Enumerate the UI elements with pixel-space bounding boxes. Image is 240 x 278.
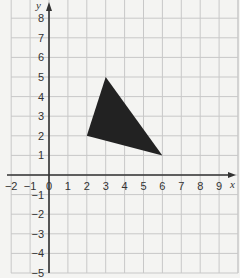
y-axis-label: y xyxy=(35,0,41,11)
x-tick-label: 3 xyxy=(103,180,109,192)
y-tick-label: 7 xyxy=(38,32,44,44)
y-tick-label: 6 xyxy=(38,51,44,63)
y-tick-label: 3 xyxy=(38,110,44,122)
y-tick-label: −1 xyxy=(31,189,44,201)
y-tick-label: 2 xyxy=(38,130,44,142)
tick-labels: −2−1012345678987654321−1−2−3−4−5 xyxy=(5,12,222,278)
x-tick-label: 5 xyxy=(140,180,146,192)
x-tick-label: 6 xyxy=(159,180,165,192)
x-tick-label: 2 xyxy=(84,180,90,192)
y-tick-label: 8 xyxy=(38,12,44,24)
x-axis-label: x xyxy=(229,178,235,190)
y-tick-label: −3 xyxy=(31,228,44,240)
y-tick-label: 5 xyxy=(38,71,44,83)
x-tick-label: 4 xyxy=(122,180,128,192)
y-tick-label: −2 xyxy=(31,208,44,220)
y-axis-arrow-icon xyxy=(46,2,52,11)
x-tick-label: 7 xyxy=(178,180,184,192)
y-tick-label: −4 xyxy=(31,247,44,259)
coordinate-grid: −2−1012345678987654321−1−2−3−4−5 x y xyxy=(0,0,240,278)
x-tick-label: 9 xyxy=(216,180,222,192)
y-tick-label: −5 xyxy=(31,267,44,278)
y-tick-label: 4 xyxy=(38,91,44,103)
x-tick-label: 8 xyxy=(197,180,203,192)
x-tick-label: 1 xyxy=(65,180,71,192)
x-tick-label: −2 xyxy=(5,180,18,192)
y-tick-label: 1 xyxy=(38,149,44,161)
x-tick-label: 0 xyxy=(46,180,52,192)
